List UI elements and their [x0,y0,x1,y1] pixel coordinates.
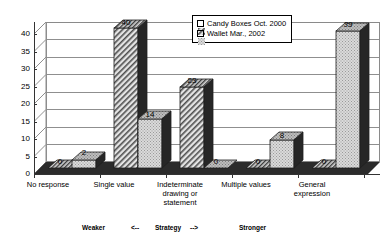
y-tick-label-40: 40 [12,30,30,38]
gridline-30 [47,57,379,58]
data-label-candy-4: 0 [309,158,339,166]
y-axis [34,22,35,174]
data-label-wallet-3: 8 [267,132,297,140]
annotation-arrow-right: --> [190,224,198,232]
legend-label-wallet: Wallet Mar., 2002 [207,30,265,38]
x-category-label-2-line-2: statement [141,198,219,207]
x-tick-mark-4 [298,174,299,178]
x-axis [34,174,380,175]
y-tick-label-25: 25 [12,83,30,91]
y-tick-mark-10 [34,139,37,140]
data-label-candy-2: 23 [177,77,207,85]
gridline-25 [47,74,379,75]
x-category-label-2-line-1: drawing or [141,189,219,198]
annotation-strategy: Strategy [155,224,181,232]
data-label-candy-0: 0 [45,158,75,166]
data-label-wallet-0: 2 [69,149,99,157]
bar-wallet-1 [138,111,174,168]
y-tick-mark-20 [34,104,37,105]
annotation-weaker: Weaker [82,224,105,232]
legend-item-wallet[interactable]: Wallet Mar., 2002 [197,29,286,38]
x-tick-mark-3 [232,174,233,178]
y-tick-mark-5 [34,157,37,158]
x-category-label-4: General expression [273,180,351,198]
y-tick-mark-30 [34,69,37,70]
y-tick-mark-35 [34,52,37,53]
x-tick-mark-2 [166,174,167,178]
plot-area: 0 5 10 15 20 25 30 35 40 [34,22,380,174]
data-label-wallet-4: 39 [333,21,363,29]
y-tick-label-35: 35 [12,48,30,56]
y-tick-mark-40 [34,34,37,35]
data-label-candy-3: 0 [243,158,273,166]
data-label-wallet-1: 14 [135,111,165,119]
y-tick-label-30: 30 [12,65,30,73]
y-tick-label-5: 5 [12,153,30,161]
y-tick-label-20: 20 [12,100,30,108]
data-label-candy-1: 40 [111,19,141,27]
y-tick-mark-25 [34,87,37,88]
x-tick-mark-0 [34,174,35,178]
y-tick-label-0: 0 [12,170,30,178]
strategy-annotation-row: Weaker <-- Strategy --> Stronger [0,224,392,236]
annotation-stronger: Stronger [239,224,266,232]
bar-candy-2 [180,79,216,168]
annotation-arrow-left: <-- [131,224,139,232]
chart-legend: Candy Boxes Oct. 2000 Wallet Mar., 2002 [192,15,292,43]
legend-label-candy-boxes: Candy Boxes Oct. 2000 [207,20,286,28]
hatch-swatch-icon [197,20,204,27]
data-label-wallet-2: 0 [201,158,231,166]
dotted-swatch-icon [197,30,204,37]
x-category-label-4-line-0: General [273,180,351,189]
y-tick-label-10: 10 [12,135,30,143]
bar-chart: 0 5 10 15 20 25 30 35 40 [0,0,392,244]
x-tick-mark-1 [100,174,101,178]
legend-item-candy-boxes[interactable]: Candy Boxes Oct. 2000 [197,19,286,28]
left-perspective-panel [34,22,46,174]
x-category-label-4-line-1: expression [273,189,351,198]
x-tick-mark-5 [364,174,365,178]
bar-wallet-4 [336,23,372,168]
y-tick-mark-15 [34,122,37,123]
y-tick-label-15: 15 [12,118,30,126]
